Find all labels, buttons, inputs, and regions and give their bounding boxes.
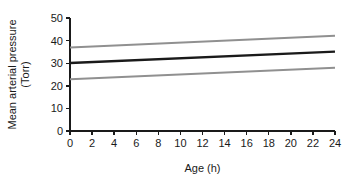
chart-plot-area: 01020304050024681012141618202224Age (h)M… <box>0 0 345 185</box>
chart-figure: 01020304050024681012141618202224Age (h)M… <box>0 0 345 185</box>
y-axis-title-line1: Mean arterial pressure <box>6 19 18 129</box>
y-axis-tick-label: 30 <box>51 57 63 69</box>
y-axis-tick-label: 50 <box>51 12 63 24</box>
x-axis-tick-label: 10 <box>174 137 186 149</box>
x-axis-tick-label: 4 <box>111 137 117 149</box>
y-axis-tick-label: 20 <box>51 80 63 92</box>
x-axis-tick-label: 22 <box>307 137 319 149</box>
x-axis-tick-label: 16 <box>241 137 253 149</box>
x-axis-tick-label: 2 <box>89 137 95 149</box>
x-axis-tick-label: 20 <box>285 137 297 149</box>
x-axis-title: Age (h) <box>184 162 220 174</box>
x-axis-tick-label: 0 <box>67 137 73 149</box>
x-axis-tick-label: 24 <box>329 137 341 149</box>
y-axis-tick-label: 10 <box>51 102 63 114</box>
x-axis-tick-label: 18 <box>263 137 275 149</box>
series-line <box>70 68 335 80</box>
x-axis-tick-label: 12 <box>196 137 208 149</box>
y-axis-tick-label: 0 <box>57 125 63 137</box>
y-axis-tick-label: 40 <box>51 35 63 47</box>
x-axis-tick-label: 6 <box>133 137 139 149</box>
x-axis-tick-label: 14 <box>218 137 230 149</box>
series-line <box>70 52 335 63</box>
y-axis-title-line2: (Torr) <box>19 61 31 87</box>
x-axis-tick-label: 8 <box>155 137 161 149</box>
series-line <box>70 36 335 48</box>
